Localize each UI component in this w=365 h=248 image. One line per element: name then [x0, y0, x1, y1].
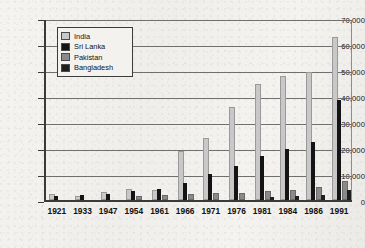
- bar-group: [255, 18, 274, 200]
- legend-swatch-sri-lanka: [61, 43, 70, 51]
- bar-group: [306, 18, 325, 200]
- bar-sri-lanka-1984: [285, 149, 289, 200]
- bar-group: [203, 18, 222, 200]
- x-axis-tick-label: 1981: [253, 206, 272, 216]
- legend-item: Pakistan: [61, 52, 128, 63]
- bar-sri-lanka-1976: [234, 166, 238, 200]
- bar-group: [280, 18, 299, 200]
- bar-sri-lanka-1921: [54, 196, 58, 200]
- bar-pakistan-1961: [162, 195, 168, 200]
- x-axis-tick-label: 1976: [227, 206, 246, 216]
- bar-sri-lanka-1991: [337, 100, 341, 200]
- bar-sri-lanka-1966: [183, 183, 187, 200]
- bar-bangladesh-1981: [270, 197, 274, 200]
- legend-item: India: [61, 31, 128, 42]
- bar-group: [229, 18, 248, 200]
- legend-swatch-bangladesh: [61, 64, 70, 72]
- bar-sri-lanka-1933: [80, 195, 84, 200]
- legend-label-bangladesh: Bangladesh: [74, 64, 113, 71]
- x-axis-tick-label: 1961: [150, 206, 169, 216]
- x-axis-tick-label: 1984: [279, 206, 298, 216]
- x-axis-tick-label: 1933: [73, 206, 92, 216]
- bar-bangladesh-1984: [295, 196, 299, 200]
- legend-item: Bangladesh: [61, 63, 128, 74]
- x-axis-tick-label: 1991: [330, 206, 349, 216]
- bar-group: [152, 18, 171, 200]
- x-axis-tick-label: 1966: [176, 206, 195, 216]
- bar-group: [178, 18, 197, 200]
- bar-sri-lanka-1981: [260, 156, 264, 200]
- x-axis-tick-label: 1921: [48, 206, 67, 216]
- x-axis-tick-label: 1954: [125, 206, 144, 216]
- legend-label-pakistan: Pakistan: [74, 54, 102, 61]
- bar-sri-lanka-1971: [208, 174, 212, 200]
- x-axis-tick-label: 1971: [202, 206, 221, 216]
- legend-item: Sri Lanka: [61, 42, 128, 53]
- bar-pakistan-1976: [239, 193, 245, 200]
- grouped-bar-chart: 010,00020,00030,00040,00050,00060,00070,…: [0, 0, 365, 248]
- bar-pakistan-1954: [136, 196, 142, 200]
- bar-group: [332, 18, 351, 200]
- x-axis-tick-label: 1947: [99, 206, 118, 216]
- bar-sri-lanka-1947: [106, 194, 110, 200]
- chart-legend: India Sri Lanka Pakistan Bangladesh: [57, 27, 133, 77]
- legend-label-india: India: [74, 33, 90, 40]
- y-axis-tick: [38, 202, 44, 203]
- legend-swatch-pakistan: [61, 53, 70, 61]
- bar-pakistan-1966: [188, 194, 194, 200]
- bar-bangladesh-1986: [321, 195, 325, 200]
- legend-label-sri-lanka: Sri Lanka: [74, 43, 105, 50]
- bar-bangladesh-1991: [347, 190, 351, 200]
- legend-swatch-india: [61, 32, 70, 40]
- bar-sri-lanka-1986: [311, 142, 315, 200]
- bar-pakistan-1971: [213, 193, 219, 200]
- bar-sri-lanka-1961: [157, 189, 161, 200]
- x-axis-tick-label: 1986: [304, 206, 323, 216]
- bar-sri-lanka-1954: [131, 191, 135, 200]
